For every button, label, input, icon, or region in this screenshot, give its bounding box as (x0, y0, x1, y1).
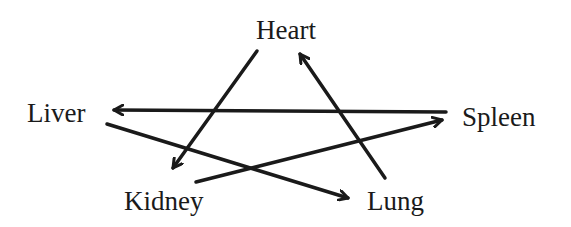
edge-kidney-to-spleen (196, 120, 442, 182)
edge-spleen-to-liver (114, 110, 446, 112)
edge-lung-to-heart (300, 54, 385, 178)
node-lung: Lung (367, 188, 424, 215)
node-spleen: Spleen (462, 104, 536, 131)
organ-diagram: Heart Liver Spleen Kidney Lung (0, 0, 571, 227)
node-kidney: Kidney (124, 188, 203, 215)
node-heart: Heart (256, 17, 316, 44)
node-liver: Liver (27, 100, 85, 127)
